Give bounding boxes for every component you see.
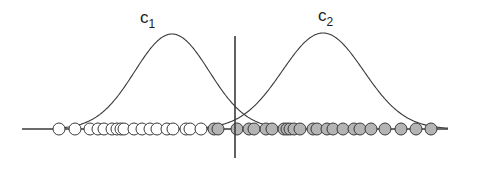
class1-distribution-curve (64, 34, 295, 129)
class2-point (248, 123, 260, 135)
class1-point (53, 123, 65, 135)
class2-point (266, 123, 278, 135)
class1-point (69, 123, 81, 135)
distribution-diagram: c1 c2 (0, 0, 478, 171)
class2-distribution-curve (196, 33, 448, 128)
class2-point (354, 123, 366, 135)
class2-point (212, 123, 224, 135)
class2-point (410, 123, 422, 135)
class2-point (425, 123, 437, 135)
class2-label: c2 (318, 6, 334, 29)
class2-point (379, 123, 391, 135)
class2-point (294, 123, 306, 135)
class1-point (184, 123, 196, 135)
class1-curve-path (64, 34, 295, 129)
class2-curve-path (196, 33, 448, 128)
class2-point (231, 123, 243, 135)
class1-points (53, 123, 207, 135)
class2-point (337, 123, 349, 135)
class2-label-subscript: 2 (327, 15, 334, 29)
class1-label-subscript: 1 (149, 17, 156, 31)
class2-point (365, 123, 377, 135)
class1-point (195, 123, 207, 135)
class1-point (167, 123, 179, 135)
class1-label: c1 (140, 8, 156, 31)
class2-point (395, 123, 407, 135)
class2-points (208, 123, 437, 135)
